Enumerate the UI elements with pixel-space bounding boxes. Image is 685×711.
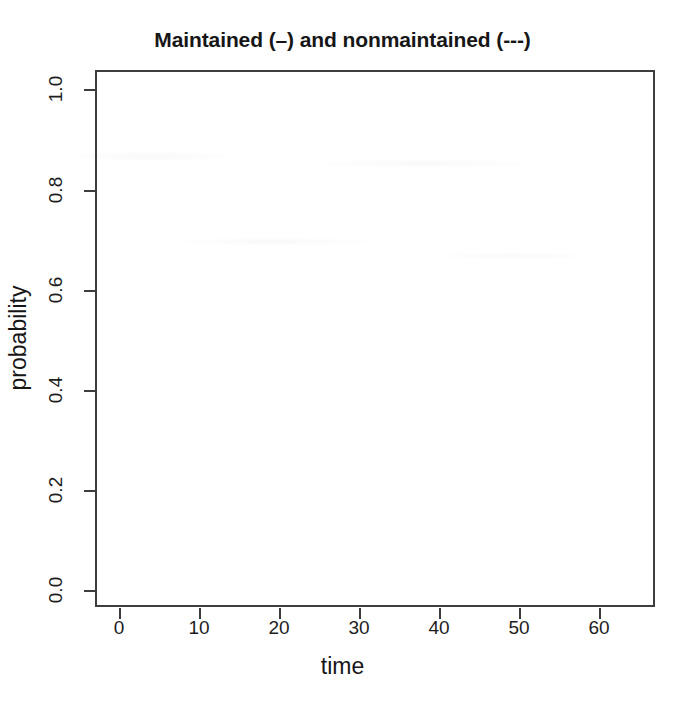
y-tick-mark [84,490,95,492]
y-tick-mark [84,590,95,592]
x-tick-label: 40 [428,617,449,639]
x-tick-label: 30 [348,617,369,639]
y-tick-mark [84,290,95,292]
y-tick-mark [84,190,95,192]
x-tick-label: 60 [588,617,609,639]
x-tick-label: 10 [188,617,209,639]
x-tick-label: 0 [114,617,125,639]
y-tick-mark [84,89,95,91]
y-tick-mark [84,390,95,392]
x-axis-label: time [0,653,685,680]
chart-title: Maintained (–) and nonmaintained (---) [0,28,685,52]
figure-canvas: Maintained (–) and nonmaintained (---) 0… [0,0,685,711]
x-tick-label: 20 [268,617,289,639]
plot-area [97,72,653,605]
plot-frame [95,70,655,607]
x-tick-label: 50 [508,617,529,639]
